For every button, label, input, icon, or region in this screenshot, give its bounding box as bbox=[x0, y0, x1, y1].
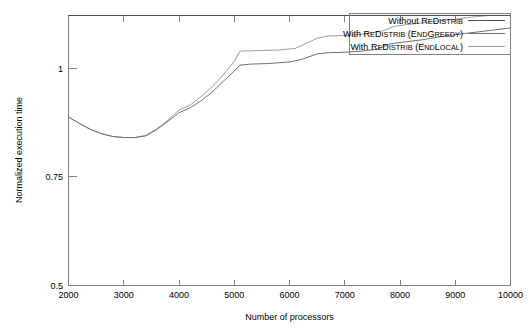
x-tick-label-7000: 7000 bbox=[335, 290, 355, 300]
chart-figure: 1 0.75 0.5 2000 3000 4000 5000 6000 bbox=[0, 0, 532, 332]
y-axis-group: 1 0.75 0.5 bbox=[45, 64, 76, 291]
y-tick-label-075: 0.75 bbox=[45, 172, 63, 182]
x-tick-label-10000: 10000 bbox=[498, 290, 523, 300]
legend: Without REDISTRIB With REDISTRIB (ENDGRE… bbox=[343, 14, 510, 55]
legend-label-end-local: With REDISTRIB (ENDLOCAL) bbox=[350, 42, 463, 52]
y-tick-label-05: 0.5 bbox=[50, 281, 63, 291]
y-tick-label-1: 1 bbox=[58, 64, 63, 74]
x-tick-label-9000: 9000 bbox=[445, 290, 465, 300]
line-chart-svg: 1 0.75 0.5 2000 3000 4000 5000 6000 bbox=[0, 0, 532, 332]
x-axis-group: 2000 3000 4000 5000 6000 7000 8000 9000 bbox=[58, 16, 523, 301]
x-tick-label-2000: 2000 bbox=[58, 290, 78, 300]
legend-label-without-redistrib: Without REDISTRIB bbox=[388, 16, 463, 26]
legend-label-end-greedy: With REDISTRIB (ENDGREEDY) bbox=[343, 29, 463, 39]
x-tick-label-8000: 8000 bbox=[390, 290, 410, 300]
x-tick-label-3000: 3000 bbox=[114, 290, 134, 300]
y-axis-title: Normalized execution time bbox=[14, 97, 24, 203]
plot-frame bbox=[69, 16, 511, 286]
x-axis-title: Number of processors bbox=[245, 312, 334, 322]
x-tick-label-5000: 5000 bbox=[224, 290, 244, 300]
x-tick-label-4000: 4000 bbox=[169, 290, 189, 300]
x-tick-label-6000: 6000 bbox=[279, 290, 299, 300]
